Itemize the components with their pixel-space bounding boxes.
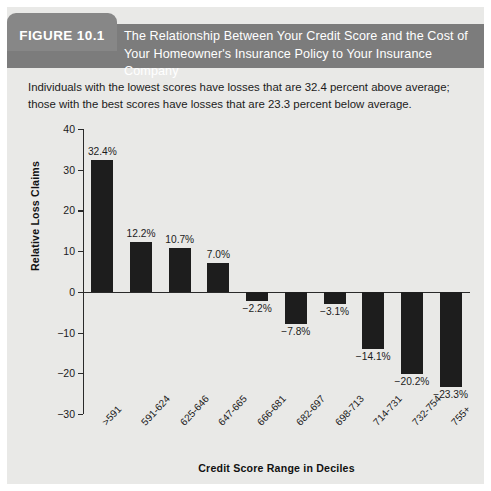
y-tick-label: 30 — [63, 164, 75, 176]
y-tick-label: 40 — [63, 123, 75, 135]
bar — [130, 242, 152, 292]
y-tick-mark — [78, 170, 83, 171]
y-tick-label: 0 — [69, 286, 75, 298]
y-axis-line — [83, 129, 84, 414]
figure-title: The Relationship Between Your Credit Sco… — [124, 28, 476, 81]
plot-area: 403020100−10−20−30 32.4%12.2%10.7%7.0%−2… — [83, 129, 470, 414]
bar — [362, 292, 384, 349]
bar-value-label: 7.0% — [188, 249, 248, 260]
x-tick-label: 698-713 — [333, 393, 366, 427]
bar — [207, 263, 229, 292]
y-tick-mark — [78, 333, 83, 334]
x-tick-label: >591 — [100, 404, 123, 428]
y-axis-title: Relative Loss Claims — [29, 161, 41, 271]
x-tick-label: 647-665 — [216, 393, 249, 427]
x-tick-label: 625-646 — [178, 393, 211, 427]
y-tick-mark — [78, 129, 83, 130]
bar — [440, 292, 462, 387]
bar-value-label: −3.1% — [305, 306, 365, 317]
y-tick-mark — [78, 373, 83, 374]
figure-number-tab: FIGURE 10.1 — [7, 13, 117, 51]
y-tick-mark — [78, 414, 83, 415]
y-tick-label: 10 — [63, 245, 75, 257]
bar — [169, 248, 191, 292]
y-tick-label: −10 — [57, 327, 75, 339]
y-tick-mark — [78, 210, 83, 211]
bar-value-label: −20.2% — [382, 376, 442, 387]
bar — [324, 292, 346, 305]
bar-value-label: −14.1% — [343, 351, 403, 362]
y-tick-label: 20 — [63, 204, 75, 216]
y-tick-mark — [78, 292, 83, 293]
bar — [285, 292, 307, 324]
bar — [246, 292, 268, 301]
figure-number-label: FIGURE 10.1 — [7, 28, 117, 43]
y-tick-label: −20 — [57, 367, 75, 379]
x-tick-label: 591-624 — [139, 393, 172, 427]
bar — [401, 292, 423, 374]
x-tick-label: 755+ — [449, 404, 472, 428]
y-tick-label: −30 — [57, 408, 75, 420]
x-axis-title: Credit Score Range in Deciles — [83, 462, 470, 474]
bar-value-label: −2.2% — [227, 303, 287, 314]
bar — [91, 160, 113, 292]
x-tick-label: 714-731 — [371, 393, 404, 427]
figure-panel: The Relationship Between Your Credit Sco… — [7, 7, 484, 484]
bar-value-label: −7.8% — [266, 326, 326, 337]
y-tick-mark — [78, 251, 83, 252]
x-tick-label: 666-681 — [255, 393, 288, 427]
bar-value-label: 10.7% — [150, 234, 210, 245]
x-tick-label: 682-697 — [294, 393, 327, 427]
bar-value-label: 32.4% — [72, 146, 132, 157]
